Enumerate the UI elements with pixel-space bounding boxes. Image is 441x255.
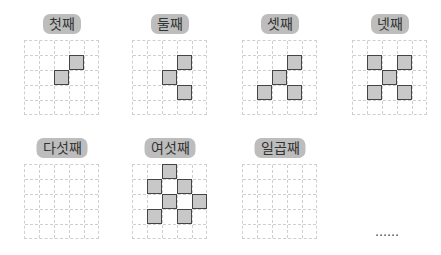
grid-line: [243, 100, 316, 101]
grid-line: [353, 100, 426, 101]
grid-line: [272, 165, 273, 238]
grid-line: [243, 194, 316, 195]
step-panel: 넷째: [352, 14, 428, 119]
grid-line: [147, 165, 148, 238]
grid-line: [243, 85, 316, 86]
grid-line: [25, 100, 98, 101]
step-panel: 여섯째: [132, 138, 208, 243]
grid-line: [412, 41, 413, 114]
grid-line: [353, 85, 426, 86]
grid-line: [39, 165, 40, 238]
grid-line: [133, 55, 206, 56]
dotted-grid: [242, 40, 317, 115]
filled-square: [287, 55, 302, 70]
grid-line: [25, 55, 98, 56]
step-label: 둘째: [151, 14, 189, 34]
step-panel: 첫째: [24, 14, 100, 119]
grid-line: [287, 165, 288, 238]
filled-square: [177, 209, 192, 224]
filled-square: [177, 179, 192, 194]
grid-line: [177, 165, 178, 238]
grid-line: [367, 41, 368, 114]
grid-line: [69, 41, 70, 114]
step-label: 첫째: [43, 14, 81, 34]
grid-line: [133, 179, 206, 180]
filled-square: [162, 164, 177, 179]
filled-square: [367, 85, 382, 100]
grid-line: [177, 41, 178, 114]
grid-line: [257, 165, 258, 238]
grid-line: [25, 224, 98, 225]
dotted-grid: [132, 164, 207, 239]
step-panel: 일곱째: [242, 138, 318, 243]
grid-line: [257, 41, 258, 114]
grid-line: [397, 41, 398, 114]
step-label: 넷째: [371, 14, 409, 34]
grid-line: [243, 179, 316, 180]
step-label: 일곱째: [255, 138, 306, 158]
grid-line: [133, 85, 206, 86]
step-panel: 다섯째: [24, 138, 100, 243]
filled-square: [397, 55, 412, 70]
grid-line: [25, 179, 98, 180]
grid-line: [25, 209, 98, 210]
filled-square: [397, 85, 412, 100]
grid-line: [84, 165, 85, 238]
filled-square: [192, 194, 207, 209]
grid-line: [243, 55, 316, 56]
filled-square: [382, 70, 397, 85]
dotted-grid: [132, 40, 207, 115]
continuation-ellipsis: ……: [375, 225, 399, 239]
grid-line: [133, 100, 206, 101]
filled-square: [147, 179, 162, 194]
dotted-grid: [352, 40, 427, 115]
step-label: 셋째: [261, 14, 299, 34]
grid-line: [25, 85, 98, 86]
filled-square: [162, 194, 177, 209]
grid-line: [302, 41, 303, 114]
grid-line: [25, 194, 98, 195]
grid-line: [133, 209, 206, 210]
grid-line: [84, 41, 85, 114]
grid-line: [243, 209, 316, 210]
step-label: 여섯째: [145, 138, 196, 158]
grid-line: [353, 55, 426, 56]
filled-square: [177, 85, 192, 100]
grid-line: [287, 41, 288, 114]
step-panel: 둘째: [132, 14, 208, 119]
filled-square: [69, 55, 84, 70]
grid-line: [54, 165, 55, 238]
dotted-grid: [24, 164, 99, 239]
grid-line: [147, 41, 148, 114]
filled-square: [147, 209, 162, 224]
grid-line: [39, 41, 40, 114]
grid-line: [302, 165, 303, 238]
grid-line: [69, 165, 70, 238]
filled-square: [287, 85, 302, 100]
filled-square: [54, 70, 69, 85]
filled-square: [272, 70, 287, 85]
grid-line: [192, 41, 193, 114]
filled-square: [162, 70, 177, 85]
filled-square: [177, 55, 192, 70]
dotted-grid: [24, 40, 99, 115]
step-label: 다섯째: [37, 138, 88, 158]
grid-line: [133, 224, 206, 225]
dotted-grid: [242, 164, 317, 239]
filled-square: [367, 55, 382, 70]
filled-square: [257, 85, 272, 100]
grid-line: [243, 224, 316, 225]
step-panel: 셋째: [242, 14, 318, 119]
